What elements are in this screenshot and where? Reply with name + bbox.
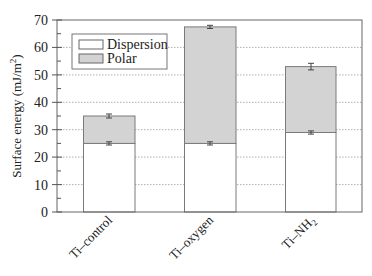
y-tick-70: 70 [34,13,48,28]
y-tick-40: 40 [34,95,48,110]
bar-ti-nh2 [286,63,337,212]
y-tick-30: 30 [34,123,48,138]
bar-segment-polar [185,27,237,143]
y-tick-10: 10 [34,178,48,193]
legend-swatch-polar [79,54,103,63]
bar-ti-oxygen [185,25,237,212]
y-tick-0: 0 [41,205,48,220]
legend-label-dispersion: Dispersion [107,37,168,52]
chart: 0 10 20 30 40 50 60 70 Surface energy (m… [0,0,372,276]
x-label-ti-nh2: Ti–NH2 [279,213,320,254]
x-label-ti-oxygen: Ti–oxygen [166,212,216,262]
y-tick-20: 20 [34,150,48,165]
bar-segment-polar [286,67,337,133]
y-tick-60: 60 [34,40,48,55]
y-tick-50: 50 [34,68,48,83]
bar-segment-dispersion [84,143,136,212]
bar-segment-polar [84,116,136,143]
legend-swatch-dispersion [79,40,103,49]
y-tick-labels: 0 10 20 30 40 50 60 70 [34,13,48,220]
y-axis-title: Surface energy (mJ/m2) [8,54,24,177]
legend: Dispersion Polar [72,34,168,69]
x-label-ti-control: Ti–control [66,212,115,261]
bar-segment-dispersion [286,133,337,213]
bar-ti-control [84,114,136,212]
bar-segment-dispersion [185,143,237,212]
legend-label-polar: Polar [107,51,137,66]
